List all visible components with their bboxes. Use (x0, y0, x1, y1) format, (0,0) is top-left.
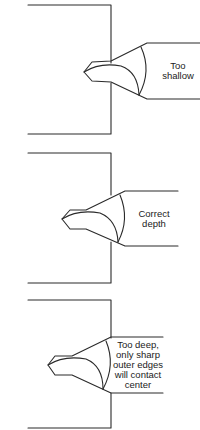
tool-relief-arc (103, 341, 110, 389)
tool-relief-arc (118, 195, 125, 242)
label-correct-depth: Correct depth (132, 209, 176, 229)
label-too-shallow: Too shallow (156, 61, 200, 81)
label-too-deep: Too deep, only sharp outer edges will co… (112, 340, 164, 390)
tool-flute-curve (48, 358, 103, 389)
tool-flute-curve (62, 212, 118, 242)
workpiece-outline (28, 5, 111, 134)
workpiece-outline (28, 300, 111, 428)
workpiece-outline (28, 153, 111, 283)
tool-relief-arc (139, 47, 146, 95)
